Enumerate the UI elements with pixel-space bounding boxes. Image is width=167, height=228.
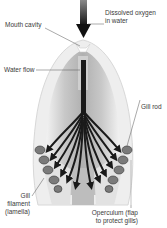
label-operculum-line1: Operculum (flap xyxy=(88,209,138,217)
label-gill-filament-line3: (lamella) xyxy=(2,208,30,216)
label-operculum-line2: to protect gills) xyxy=(88,217,138,225)
label-mouth-cavity: Mouth cavity xyxy=(5,21,42,29)
label-operculum: Operculum (flap to protect gills) xyxy=(88,209,138,225)
label-dissolved-oxygen-line2: in water xyxy=(105,17,156,25)
label-gill-filament-line2: filament xyxy=(2,200,30,208)
label-gill-filament: Gill filament (lamella) xyxy=(2,192,30,216)
label-gill-filament-line1: Gill xyxy=(2,192,30,200)
label-dissolved-oxygen: Dissolved oxygen in water xyxy=(105,9,156,25)
label-dissolved-oxygen-line1: Dissolved oxygen xyxy=(105,9,156,17)
dissolved-oxygen-arrow xyxy=(76,0,91,38)
label-gill-rod: Gill rod xyxy=(141,103,162,111)
label-water-flow: Water flow xyxy=(4,66,34,74)
